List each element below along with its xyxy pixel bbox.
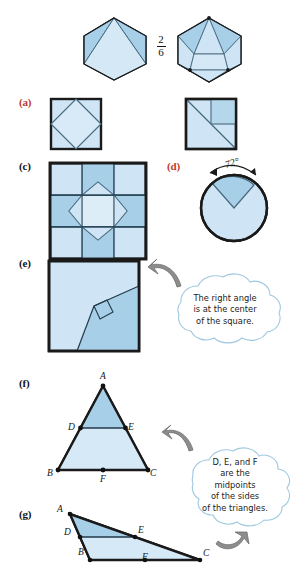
callout-arrow-midpoints-lower [214, 526, 250, 554]
square-quilt-star [48, 161, 148, 261]
callout-text-right-angle: The right angle is at the center of the … [160, 293, 290, 327]
fraction-denominator: 6 [153, 47, 169, 59]
triangle-f-midpoint-E: E [128, 422, 134, 432]
hexagon-right [172, 14, 246, 86]
triangle-g-midpoint-F: F [142, 552, 148, 562]
item-label-f: (f) [19, 378, 29, 389]
triangle-f-midpoint-D: D [68, 422, 75, 432]
callout-text-midpoints: D, E, and F are the midpoints of the sid… [176, 457, 294, 514]
item-label-e: (e) [19, 258, 31, 269]
item-label-a: (a) [19, 97, 31, 108]
fraction-two-sixths: 2 6 [153, 34, 169, 58]
triangle-f-vertex-B: B [47, 468, 53, 478]
triangle-acute-midsegment [48, 380, 158, 484]
triangle-f-vertex-A: A [100, 371, 106, 381]
triangle-f-midpoint-F: F [100, 474, 106, 484]
square-diagonal-quarters [184, 97, 238, 151]
item-label-c: (c) [19, 161, 31, 172]
fraction-numerator: 2 [153, 34, 169, 46]
hexagon-left [78, 14, 150, 84]
triangle-obtuse-midsegment [58, 508, 208, 570]
triangle-g-vertex-B: B [78, 547, 84, 557]
item-label-g: (g) [19, 509, 31, 520]
square-inscribed-diamond [49, 97, 103, 151]
item-label-d: (d) [167, 161, 180, 172]
figure-page: 2 6 (a) (b) (c) [0, 0, 303, 571]
triangle-g-midpoint-D: D [64, 527, 71, 537]
triangle-g-midpoint-E: E [138, 525, 144, 535]
triangle-g-vertex-A: A [57, 504, 63, 514]
square-right-angle-center [46, 258, 142, 354]
triangle-f-vertex-C: C [150, 468, 156, 478]
triangle-g-vertex-C: C [203, 548, 209, 558]
circle-sector [198, 172, 270, 244]
